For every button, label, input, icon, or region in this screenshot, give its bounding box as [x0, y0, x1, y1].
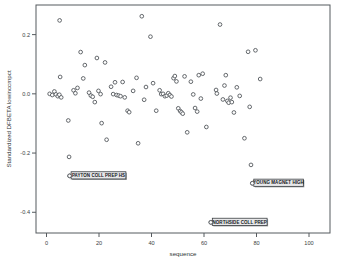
- data-point: [127, 110, 131, 114]
- data-point: [258, 77, 262, 81]
- y-tick-label: 0.2: [22, 32, 30, 38]
- data-point: [119, 94, 123, 98]
- x-tick-label: 20: [96, 240, 102, 246]
- plot-canvas: 0204060801000.20.0-0.2-0.4 PAYTON COLL P…: [0, 0, 340, 261]
- data-point: [191, 93, 195, 97]
- data-point: [140, 14, 144, 18]
- data-point: [232, 111, 236, 115]
- data-point: [142, 98, 146, 102]
- data-point: [181, 112, 185, 116]
- y-tick-label: 0.0: [22, 91, 30, 97]
- data-point: [105, 138, 109, 142]
- data-point: [215, 92, 219, 96]
- data-point: [135, 76, 139, 80]
- data-point: [170, 95, 174, 99]
- data-point: [221, 98, 225, 102]
- data-point: [243, 136, 247, 140]
- data-point: [74, 91, 78, 95]
- y-axis-title: Standardized DFBETA lowinccmpct: [5, 70, 12, 167]
- data-point: [67, 155, 71, 159]
- data-point: [218, 23, 222, 27]
- data-point: [249, 163, 253, 167]
- data-point: [66, 119, 70, 123]
- data-point: [76, 86, 80, 90]
- data-point: [173, 74, 177, 78]
- data-point: [123, 96, 127, 100]
- chart-background: [0, 0, 340, 261]
- data-point: [248, 105, 252, 109]
- annotation-text-payton: PAYTON COLL PREP HS: [72, 173, 125, 178]
- data-point: [149, 35, 153, 39]
- data-point: [144, 85, 148, 89]
- data-point: [235, 85, 239, 89]
- x-tick-label: 0: [45, 240, 48, 246]
- data-point: [151, 81, 155, 85]
- annotation-text-young: YOUNG MAGNET HIGH: [253, 180, 304, 185]
- data-point: [229, 96, 233, 100]
- data-point: [185, 130, 189, 134]
- data-point: [254, 48, 258, 52]
- data-point: [246, 50, 250, 54]
- x-axis-title: sequence: [170, 250, 197, 257]
- labeled-data-point-payton: [68, 174, 72, 178]
- data-point: [100, 121, 104, 125]
- data-point: [199, 97, 203, 101]
- data-point: [131, 89, 135, 93]
- y-tick-label: -0.2: [20, 150, 30, 156]
- data-point: [58, 75, 62, 79]
- x-tick-label: 40: [148, 240, 154, 246]
- labeled-data-point-young: [250, 181, 254, 185]
- data-point: [238, 94, 242, 98]
- data-point: [214, 88, 218, 92]
- data-point: [93, 100, 97, 104]
- data-point: [193, 106, 197, 110]
- annotation-text-northside: NORTHSIDE COLL PREP: [213, 220, 267, 225]
- data-point: [223, 84, 227, 88]
- data-point: [195, 110, 199, 114]
- data-point: [58, 19, 62, 23]
- y-tick-label: -0.4: [20, 209, 30, 215]
- data-point: [158, 88, 162, 92]
- x-tick-label: 80: [253, 240, 259, 246]
- data-point: [113, 80, 117, 84]
- data-point: [136, 141, 140, 145]
- data-point: [197, 73, 201, 77]
- data-point: [121, 80, 125, 84]
- data-point: [83, 63, 87, 67]
- x-tick-label: 100: [304, 240, 313, 246]
- data-point: [205, 125, 209, 129]
- data-point: [109, 85, 113, 89]
- data-point: [230, 100, 234, 104]
- data-point: [59, 96, 63, 100]
- data-point: [154, 109, 158, 113]
- data-point: [79, 50, 83, 54]
- labeled-data-point-northside: [209, 220, 213, 224]
- data-point: [103, 61, 107, 65]
- x-tick-label: 60: [201, 240, 207, 246]
- data-point: [91, 95, 95, 99]
- data-point: [99, 92, 103, 96]
- data-point: [95, 56, 99, 60]
- data-point: [224, 73, 228, 77]
- data-point: [50, 93, 54, 97]
- data-point: [175, 80, 179, 84]
- data-point: [201, 72, 205, 76]
- data-point: [189, 80, 193, 84]
- scatter-chart: 0204060801000.20.0-0.2-0.4 PAYTON COLL P…: [0, 0, 340, 261]
- data-point: [81, 77, 85, 81]
- data-point: [183, 75, 187, 79]
